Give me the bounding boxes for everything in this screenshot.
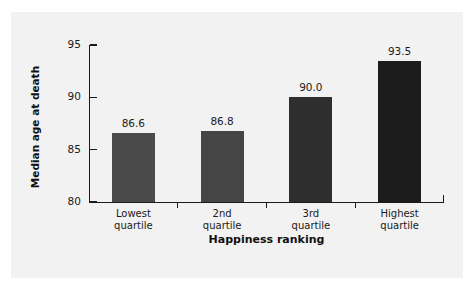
- category-label-line: quartile: [88, 220, 178, 232]
- x-axis-title: Happiness ranking: [89, 233, 444, 246]
- y-axis-tick-label: 90: [51, 90, 81, 102]
- y-axis-tick: [90, 97, 97, 98]
- y-axis-spine: [89, 45, 90, 203]
- bar: [201, 131, 244, 202]
- y-axis-tick-label: 80: [51, 195, 81, 207]
- category-label-line: 3rd: [266, 208, 356, 220]
- category-label: 3rdquartile: [266, 208, 356, 231]
- y-axis-tick-label: 85: [51, 143, 81, 155]
- category-label-line: quartile: [266, 220, 356, 232]
- category-label: Lowestquartile: [88, 208, 178, 231]
- y-axis-tick: [90, 44, 97, 45]
- x-axis-end-tick: [443, 195, 444, 203]
- bar-value-label: 93.5: [370, 45, 430, 57]
- bar-value-label: 86.6: [103, 117, 163, 129]
- y-axis-tick: [90, 201, 97, 202]
- bar-value-label: 90.0: [281, 81, 341, 93]
- figure: 80859095 Median age at death 86.686.890.…: [0, 0, 474, 289]
- category-label-line: quartile: [177, 220, 267, 232]
- category-label: 2ndquartile: [177, 208, 267, 231]
- category-label-line: quartile: [355, 220, 445, 232]
- category-label-line: 2nd: [177, 208, 267, 220]
- category-label-line: Highest: [355, 208, 445, 220]
- y-axis-tick-label: 95: [51, 38, 81, 50]
- category-label-line: Lowest: [88, 208, 178, 220]
- bar: [378, 61, 421, 202]
- category-label: Highestquartile: [355, 208, 445, 231]
- bar: [289, 97, 332, 202]
- y-axis-title: Median age at death: [29, 0, 43, 52]
- bar-value-label: 86.8: [192, 115, 252, 127]
- plot-area: 80859095 Median age at death 86.686.890.…: [0, 0, 474, 289]
- y-axis-title-text: Median age at death: [29, 52, 41, 202]
- bar: [112, 133, 155, 202]
- y-axis-tick: [90, 149, 97, 150]
